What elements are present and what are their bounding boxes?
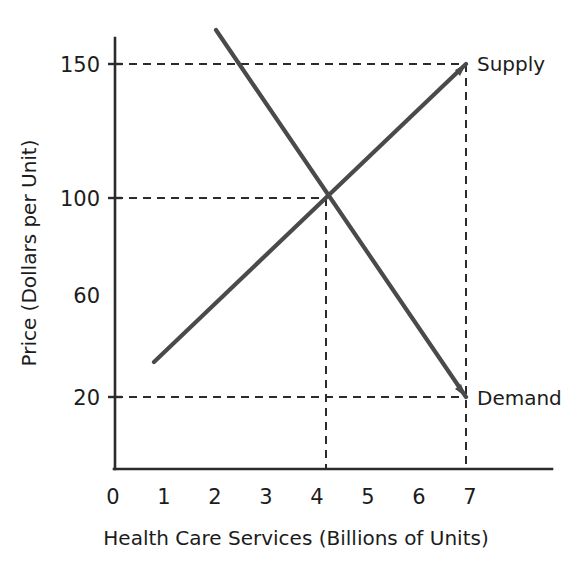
x-tick-label-6: 6 <box>412 485 425 509</box>
x-tick-label-4: 4 <box>310 485 323 509</box>
guide-lines <box>115 64 466 469</box>
x-tick-label-7: 7 <box>463 485 476 509</box>
supply-curve <box>154 64 466 362</box>
y-tick-label-150: 150 <box>60 53 100 77</box>
y-axis-title: Price (Dollars per Unit) <box>17 139 41 366</box>
supply-curve-label: Supply <box>477 52 545 76</box>
supply-line <box>154 64 466 362</box>
x-tick-label-3: 3 <box>259 485 272 509</box>
x-tick-label-0: 0 <box>106 485 119 509</box>
supply-demand-chart: 150 100 60 20 0 1 2 3 4 5 6 7 Supply Dem… <box>0 0 581 567</box>
x-tick-label-2: 2 <box>208 485 221 509</box>
demand-curve-label: Demand <box>477 386 562 410</box>
y-tick-label-20: 20 <box>73 386 100 410</box>
demand-curve <box>216 30 466 397</box>
y-tick-label-60: 60 <box>73 284 100 308</box>
chart-canvas: 150 100 60 20 0 1 2 3 4 5 6 7 Supply Dem… <box>0 0 581 567</box>
x-tick-label-1: 1 <box>157 485 170 509</box>
demand-line <box>216 30 466 397</box>
x-tick-label-5: 5 <box>361 485 374 509</box>
y-tick-label-100: 100 <box>60 187 100 211</box>
x-axis-title: Health Care Services (Billions of Units) <box>103 526 488 550</box>
